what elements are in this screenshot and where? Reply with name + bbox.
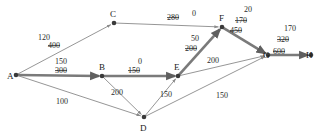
edge-label-f-g-2: 450 bbox=[230, 26, 242, 35]
edge-label-g-h-2: 600 bbox=[273, 47, 285, 56]
edge-label-g-h-0: 170 bbox=[284, 24, 296, 33]
node-label-e: E bbox=[174, 62, 180, 72]
edge-labels-layer: 1204001503001002800015020015015050200200… bbox=[38, 5, 296, 106]
edge-label-d-e-0: 150 bbox=[160, 90, 172, 99]
edge-label-e-g-0: 200 bbox=[207, 56, 219, 65]
node-c[interactable] bbox=[112, 21, 117, 26]
edge-label-b-d-0: 200 bbox=[111, 88, 123, 97]
node-label-c: C bbox=[110, 9, 116, 19]
node-b[interactable] bbox=[100, 74, 105, 79]
edge-label-e-f-1: 200 bbox=[185, 44, 197, 53]
edge-label-b-e-1: 150 bbox=[128, 66, 140, 75]
diagram-canvas: 1204001503001002800015020015015050200200… bbox=[0, 0, 320, 137]
node-label-f: F bbox=[219, 13, 224, 23]
node-label-a: A bbox=[7, 71, 14, 81]
node-label-b: B bbox=[99, 62, 105, 72]
node-label-d: D bbox=[140, 123, 147, 133]
edge-label-d-g-0: 150 bbox=[216, 91, 228, 100]
node-label-h: H bbox=[306, 50, 313, 60]
edge-label-g-h-1: 320 bbox=[277, 35, 289, 44]
node-d[interactable] bbox=[142, 115, 147, 120]
edge-c-f bbox=[115, 23, 218, 27]
edge-label-c-f-1: 0 bbox=[192, 9, 196, 18]
edge-label-f-g-1: 170 bbox=[235, 16, 247, 25]
network-diagram: 1204001503001002800015020015015050200200… bbox=[0, 0, 320, 137]
node-labels-layer: ABCDEFGH bbox=[7, 9, 313, 133]
edge-a-b bbox=[17, 75, 98, 76]
node-a[interactable] bbox=[14, 73, 19, 78]
node-label-g: G bbox=[263, 50, 270, 60]
edge-d-g bbox=[145, 57, 264, 117]
edge-label-a-c-1: 400 bbox=[48, 41, 60, 50]
node-f[interactable] bbox=[220, 25, 225, 30]
edge-label-e-f-0: 50 bbox=[191, 34, 199, 43]
node-e[interactable] bbox=[176, 74, 181, 79]
edge-label-f-g-0: 20 bbox=[244, 5, 252, 14]
edge-label-c-f-0: 280 bbox=[167, 13, 179, 22]
edge-label-a-b-0: 150 bbox=[55, 57, 67, 66]
edge-label-b-e-0: 0 bbox=[138, 57, 142, 66]
edge-label-a-d-0: 100 bbox=[56, 97, 68, 106]
edge-label-a-b-1: 300 bbox=[55, 66, 67, 75]
